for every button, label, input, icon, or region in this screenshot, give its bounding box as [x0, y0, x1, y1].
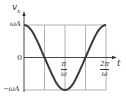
x-tick-pi-over-omega: π ω [61, 61, 67, 78]
axes [24, 14, 114, 92]
y-tick-bottom: −ωA [3, 86, 20, 93]
x-tick-1-numerator: π [62, 61, 67, 68]
x-tick-2-numerator: 2π [100, 61, 109, 68]
y-axis-label-subscript: x [17, 7, 20, 14]
x-tick-1-denominator: ω [61, 71, 67, 78]
y-tick-zero: 0 [17, 54, 22, 62]
y-tick-top: ωA [10, 21, 21, 28]
y-axis-arrow-icon [22, 11, 25, 16]
x-axis-label: t [117, 59, 121, 68]
x-tick-2-denominator: ω [102, 71, 108, 78]
y-axis-label: vx [12, 3, 20, 14]
x-tick-2pi-over-omega: 2π ω [100, 61, 109, 78]
